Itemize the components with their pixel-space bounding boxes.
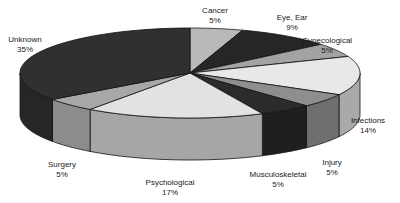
label-surgery: Surgery5% <box>48 160 76 180</box>
label-musculoskeletal: Musculoskeletal5% <box>250 170 307 190</box>
label-infections: Infections14% <box>351 116 385 136</box>
label-psychological: Psychological17% <box>146 178 195 198</box>
label-unknown: Unknown35% <box>8 35 41 55</box>
label-cancer: Cancer5% <box>202 6 228 26</box>
label-injury: Injury5% <box>322 158 342 178</box>
side-musculoskeletal <box>262 106 306 156</box>
label-gynecological: Gynecological5% <box>302 36 352 56</box>
label-eye-ear: Eye, Ear9% <box>277 13 308 33</box>
